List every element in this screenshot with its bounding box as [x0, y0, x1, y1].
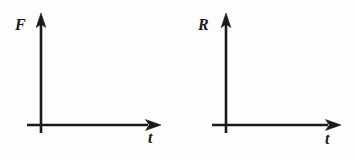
x-axis-label-resistance: t — [325, 131, 329, 147]
x-axis-label-force: t — [148, 130, 152, 146]
y-axis-label-resistance: R — [198, 17, 209, 33]
figure-root: F t R t — [0, 0, 355, 160]
axes-panel-force-vs-time: F t — [0, 0, 178, 160]
y-axis-label-force: F — [15, 17, 26, 33]
axes-panel-resistance-vs-time: R t — [178, 0, 355, 160]
